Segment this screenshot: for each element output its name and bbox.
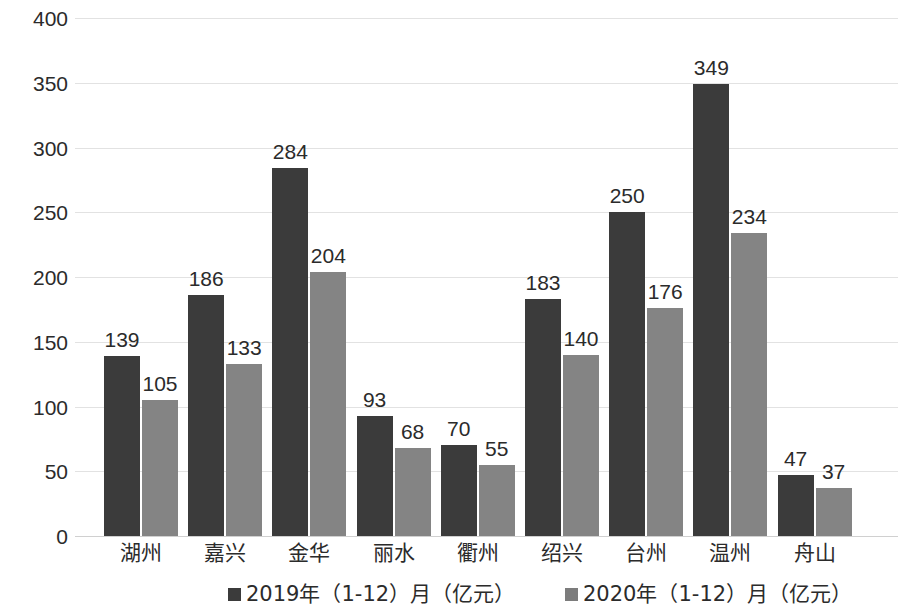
x-axis-category-label: 嘉兴 (204, 543, 246, 564)
bar (272, 168, 308, 536)
bar-value-label: 140 (563, 328, 598, 349)
legend-item[interactable]: 2020年（1-12）月（亿元） (565, 584, 852, 605)
bar-value-label: 133 (227, 337, 262, 358)
bar-value-label: 55 (485, 438, 508, 459)
y-axis-tick-label: 0 (6, 526, 68, 547)
x-axis-category-label: 台州 (625, 543, 667, 564)
gridline (75, 148, 898, 149)
bar-value-label: 70 (447, 418, 470, 439)
bar-value-label: 105 (142, 373, 177, 394)
bar (816, 488, 852, 536)
bar-value-label: 234 (732, 206, 767, 227)
legend-label: 2020年（1-12）月（亿元） (583, 584, 852, 605)
x-axis-category-label: 金华 (288, 543, 330, 564)
legend-swatch-icon (565, 588, 578, 601)
bar-value-label: 93 (363, 389, 386, 410)
bar (778, 475, 814, 536)
grouped-bar-chart: 1391051861332842049368705518314025017634… (0, 0, 898, 609)
legend-item[interactable]: 2019年（1-12）月（亿元） (228, 584, 515, 605)
bar-value-label: 349 (694, 57, 729, 78)
bar (142, 400, 178, 536)
bar (104, 356, 140, 536)
bar (647, 308, 683, 536)
bar (731, 233, 767, 536)
bar (693, 84, 729, 536)
bar-value-label: 186 (189, 268, 224, 289)
axis-baseline (75, 536, 898, 537)
x-axis-category-label: 绍兴 (541, 543, 583, 564)
bar (441, 445, 477, 536)
gridline (75, 212, 898, 213)
bar (563, 355, 599, 536)
bar-value-label: 37 (822, 461, 845, 482)
y-axis-tick-label: 400 (6, 8, 68, 29)
y-axis-tick-label: 50 (6, 461, 68, 482)
y-axis-tick-label: 150 (6, 331, 68, 352)
y-axis-tick-label: 250 (6, 202, 68, 223)
bar (479, 465, 515, 536)
gridline (75, 83, 898, 84)
bar (188, 295, 224, 536)
y-axis-tick-label: 300 (6, 137, 68, 158)
chart-legend: 2019年（1-12）月（亿元）2020年（1-12）月（亿元） (0, 580, 898, 609)
plot-area: 1391051861332842049368705518314025017634… (75, 0, 898, 537)
x-axis-category-label: 衢州 (457, 543, 499, 564)
bar-value-label: 176 (648, 281, 683, 302)
y-axis: 400350300250200150100500 (0, 0, 68, 537)
x-axis-category-label: 丽水 (373, 543, 415, 564)
bar (395, 448, 431, 536)
bar-value-label: 139 (104, 329, 139, 350)
y-axis-tick-label: 350 (6, 72, 68, 93)
bar-value-label: 204 (311, 245, 346, 266)
bar-value-label: 68 (401, 421, 424, 442)
bar (357, 416, 393, 536)
legend-swatch-icon (228, 588, 241, 601)
bar (310, 272, 346, 536)
x-axis-category-label: 舟山 (794, 543, 836, 564)
bar (525, 299, 561, 536)
y-axis-tick-label: 100 (6, 396, 68, 417)
bar (226, 364, 262, 536)
gridline (75, 18, 898, 19)
bar-value-label: 47 (784, 448, 807, 469)
x-axis-category-label: 湖州 (120, 543, 162, 564)
bar (609, 212, 645, 536)
x-axis-category-label: 温州 (709, 543, 751, 564)
y-axis-tick-label: 200 (6, 267, 68, 288)
bar-value-label: 284 (273, 141, 308, 162)
bar-value-label: 183 (525, 272, 560, 293)
bar-value-label: 250 (610, 185, 645, 206)
legend-label: 2019年（1-12）月（亿元） (246, 584, 515, 605)
